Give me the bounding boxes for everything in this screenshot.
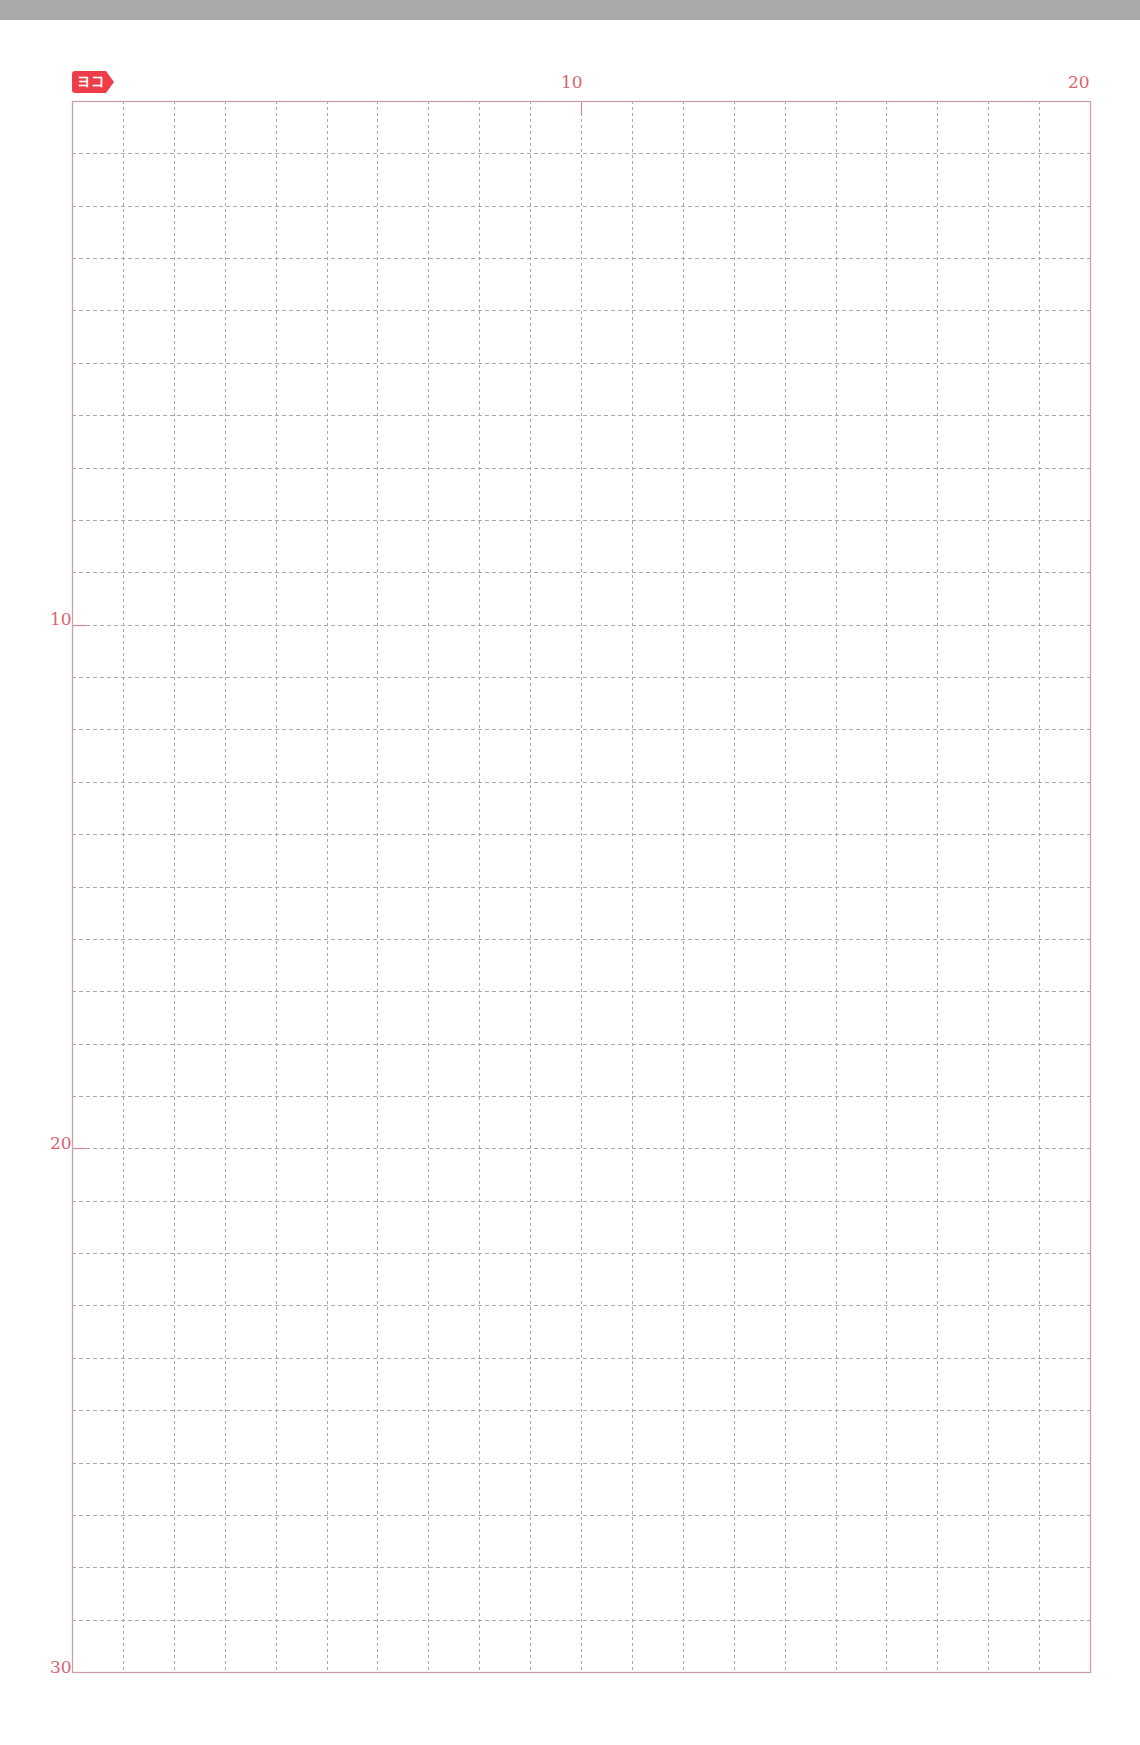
manuscript-grid <box>0 0 1140 1745</box>
